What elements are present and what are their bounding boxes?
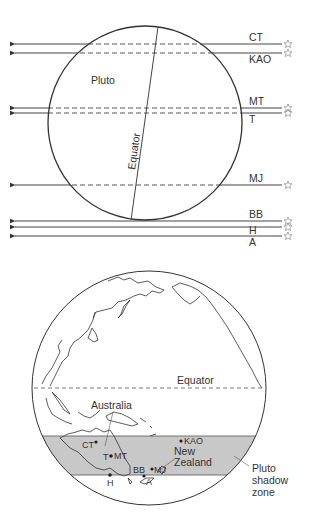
chord-label-t: T <box>249 113 256 125</box>
coast-siberia <box>93 277 164 318</box>
station-dot-ct <box>94 440 97 443</box>
chord-label-ct: CT <box>249 31 264 43</box>
australia-label: Australia <box>91 399 132 411</box>
station-label-bb: BB <box>133 465 145 475</box>
coast-japan <box>50 312 95 386</box>
shadow-zone-label-line1: Pluto <box>252 462 276 474</box>
coast-new-guinea <box>106 412 138 426</box>
coast-tasmania <box>128 478 132 484</box>
coast-china <box>42 340 62 384</box>
star-icon <box>284 104 292 112</box>
star-icon <box>284 232 292 240</box>
shadow-zone-label-line2: shadow <box>252 474 289 486</box>
station-label-mt: MT <box>114 451 127 461</box>
station-label-a: A <box>146 477 152 487</box>
star-icon <box>284 181 292 189</box>
chord-label-a: A <box>249 236 256 248</box>
star-icon <box>284 49 292 57</box>
new-zealand-label-line2: Zealand <box>174 456 212 468</box>
pluto-shadow-zone <box>20 436 280 475</box>
chord-label-mt: MT <box>249 95 265 107</box>
station-dot-kao <box>179 439 182 442</box>
chord-label-kao: KAO <box>249 53 271 65</box>
star-icon <box>284 40 292 48</box>
coast-sakhalin <box>118 300 130 318</box>
station-dot-t-mt <box>109 454 113 458</box>
earth-globe-diagram: Equator Australia New Zealand Pluto shad… <box>20 271 289 505</box>
chord-label-bb: BB <box>249 208 263 220</box>
coast-philippines <box>52 392 70 414</box>
station-label-mj: MJ <box>154 465 166 475</box>
station-label-t: T <box>103 452 109 462</box>
station-dot-h <box>108 473 112 477</box>
station-label-kao: KAO <box>184 436 203 446</box>
station-label-ct: CT <box>82 440 94 450</box>
coast-sulawesi <box>78 410 100 418</box>
chord-label-h: H <box>249 224 257 236</box>
coast-bering <box>172 287 200 304</box>
coast-solomons <box>140 418 152 428</box>
star-icons <box>284 40 292 240</box>
station-label-h: H <box>107 478 114 488</box>
earth-equator-label: Equator <box>177 374 214 386</box>
coast-honshu <box>88 328 98 342</box>
shadow-zone-label-line3: zone <box>252 486 275 498</box>
coast-alaska <box>172 283 262 388</box>
chord-label-mj: MJ <box>249 172 263 184</box>
pluto-chord-diagram: Equator Pluto CT KAO MT T MJ BB H A <box>15 26 292 248</box>
occultation-figure: Equator Pluto CT KAO MT T MJ BB H A <box>0 0 311 532</box>
pluto-label: Pluto <box>91 74 115 86</box>
